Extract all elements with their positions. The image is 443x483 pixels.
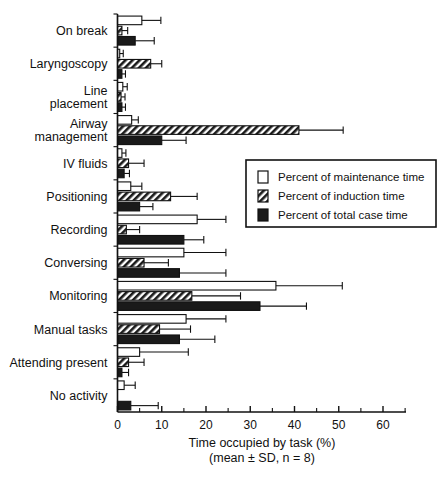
bar [118, 325, 160, 334]
bar [118, 269, 180, 278]
category-label: Monitoring [49, 289, 107, 303]
bar [118, 215, 198, 224]
x-axis-tick-labels: 0102030405060 [114, 418, 390, 432]
category-label: Attending present [10, 356, 109, 370]
chart-svg: On breakLaryngoscopyLineplacementAirwaym… [0, 0, 443, 483]
category-label: Line [84, 84, 108, 98]
bar [118, 335, 180, 344]
y-axis-category-labels: On breakLaryngoscopyLineplacementAirwaym… [10, 24, 109, 403]
x-tick-label: 10 [155, 418, 169, 432]
chart-legend: Percent of maintenance time Percent of i… [246, 160, 436, 227]
bar [118, 126, 299, 135]
bar [118, 116, 132, 125]
bar [118, 169, 125, 178]
category-label: Airway [70, 117, 108, 131]
category-label: Recording [51, 223, 108, 237]
bar [118, 302, 260, 311]
x-axis-title: Time occupied by task (%) [189, 436, 336, 450]
category-label: Conversing [44, 256, 107, 270]
bar [118, 281, 276, 290]
bar [118, 248, 184, 257]
bar [118, 358, 129, 367]
bar [118, 315, 187, 324]
bar [118, 258, 145, 267]
category-label: No activity [50, 389, 108, 403]
category-label: management [35, 130, 108, 144]
legend-swatch-total-case [258, 209, 268, 221]
bar-chart-figure: On breakLaryngoscopyLineplacementAirwaym… [0, 0, 443, 483]
bar [118, 401, 131, 410]
legend-swatch-induction [258, 190, 268, 202]
x-axis-subtitle: (mean ± SD, n = 8) [209, 451, 315, 465]
bar [118, 202, 140, 211]
bar [118, 292, 192, 301]
bar [118, 36, 136, 45]
bar [118, 348, 140, 357]
category-label: placement [50, 97, 108, 111]
category-label: IV fluids [63, 157, 107, 171]
bar [118, 381, 125, 390]
category-label: Positioning [46, 190, 107, 204]
bar [118, 159, 129, 168]
legend-swatch-maintenance [258, 171, 268, 183]
bar [118, 182, 131, 191]
category-label: Laryngoscopy [30, 57, 109, 71]
x-tick-label: 50 [332, 418, 346, 432]
legend-label-maintenance: Percent of maintenance time [278, 171, 424, 183]
x-axis-ticks [118, 406, 406, 412]
x-tick-label: 30 [244, 418, 258, 432]
bar [118, 136, 162, 145]
bar [118, 16, 142, 25]
x-tick-label: 60 [376, 418, 390, 432]
x-tick-label: 40 [288, 418, 302, 432]
category-label: On break [56, 24, 108, 38]
legend-label-total-case: Percent of total case time [278, 209, 408, 221]
x-tick-label: 0 [114, 418, 121, 432]
bar [118, 225, 127, 234]
bar [118, 235, 184, 244]
category-label: Manual tasks [34, 323, 108, 337]
bar [118, 192, 171, 201]
x-tick-label: 20 [199, 418, 213, 432]
bar [118, 59, 151, 68]
legend-label-induction: Percent of induction time [278, 190, 405, 202]
